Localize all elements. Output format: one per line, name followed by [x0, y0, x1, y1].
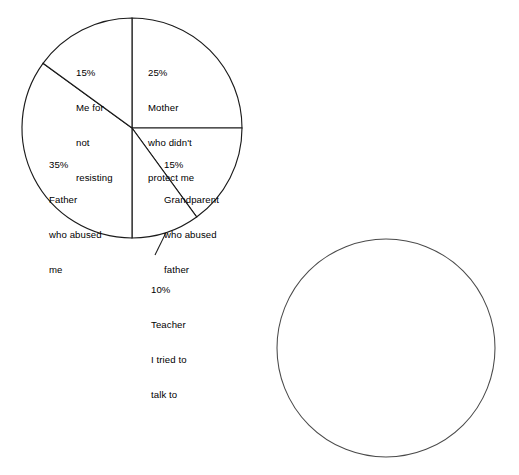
pie-label-teacher-percent: 10%	[151, 284, 187, 296]
pie-label-grandparent-line1: Grandparent	[164, 194, 219, 206]
pie-label-me-line1: Me for	[76, 102, 113, 114]
figure-canvas: 15% Me for not resisting 25% Mother who …	[0, 0, 519, 475]
pie-label-mother-line1: Mother	[148, 102, 194, 114]
pie-label-father-percent: 35%	[49, 159, 102, 171]
pie-label-grandparent-line2: who abused	[164, 229, 219, 241]
pie-label-father-line1: Father	[49, 194, 102, 206]
pie-label-father-line3: me	[49, 264, 102, 276]
pie-label-teacher-line3: talk to	[151, 389, 187, 401]
pie-label-me-percent: 15%	[76, 67, 113, 79]
pie-label-father-line2: who abused	[49, 229, 102, 241]
pie-label-mother-percent: 25%	[148, 67, 194, 79]
pie-label-father: 35% Father who abused me	[49, 136, 102, 298]
pie-label-grandparent-percent: 15%	[164, 159, 219, 171]
pie-label-teacher-line1: Teacher	[151, 319, 187, 331]
empty-pie-outline[interactable]	[277, 239, 495, 457]
pie-label-teacher-line2: I tried to	[151, 354, 187, 366]
pie-label-teacher: 10% Teacher I tried to talk to	[151, 261, 187, 423]
